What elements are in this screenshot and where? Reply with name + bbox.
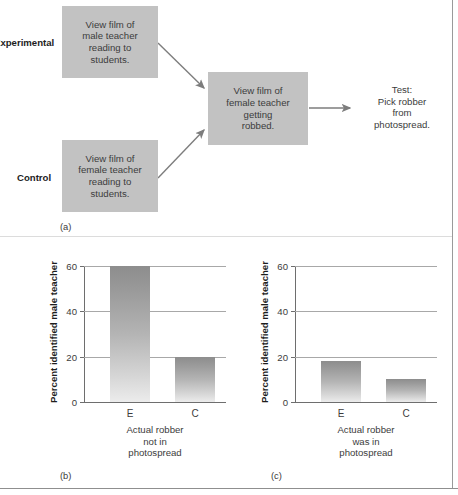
control-condition-box: View film of female teacher reading to s… xyxy=(62,140,158,212)
chart-c-ticklabel-0: 0 xyxy=(283,397,288,408)
box-line: reading to xyxy=(78,176,141,188)
chart-b-gridline-60 xyxy=(84,266,226,267)
group-label-control: Control xyxy=(17,172,51,183)
panel-letter-c: (c) xyxy=(271,470,282,481)
box-line: View film of xyxy=(82,19,137,31)
chart-b-gridline-40 xyxy=(84,311,226,312)
chart-c-bar-C xyxy=(386,379,426,402)
chart-c-y-axis-label: Percent identified male teacher xyxy=(259,261,271,403)
chart-c-ticklabel-40: 40 xyxy=(277,306,288,317)
chart-c-tick-20 xyxy=(291,357,295,358)
chart-b-xtick-E: E xyxy=(127,408,134,419)
chart-b-bar-E xyxy=(110,266,150,402)
outcome-line: photospread. xyxy=(374,119,430,130)
chart-b-ticklabel-0: 0 xyxy=(72,397,77,408)
panel-letter-b: (b) xyxy=(60,470,71,481)
caption-line: was in xyxy=(352,436,379,447)
box-line: female teacher xyxy=(226,97,289,109)
outcome-line: Test: xyxy=(392,84,412,95)
chart-b-tick-40 xyxy=(80,311,84,312)
box-line: robbed. xyxy=(226,120,289,132)
chart-b-tick-60 xyxy=(80,266,84,267)
caption-line: not in xyxy=(143,436,166,447)
outcome-line: Pick robber xyxy=(378,96,427,107)
chart-c-gridline-20 xyxy=(295,357,437,358)
chart-c-tick-0 xyxy=(291,402,295,403)
chart-c-gridline-60 xyxy=(295,266,437,267)
box-line: students. xyxy=(78,188,141,200)
box-line: getting xyxy=(226,109,289,121)
box-line: male teacher xyxy=(82,30,137,42)
experimental-condition-box: View film of male teacher reading to stu… xyxy=(62,6,158,78)
chart-c-y-axis xyxy=(295,266,296,403)
chart-c-ticklabel-60: 60 xyxy=(277,261,288,272)
chart-b-ticklabel-20: 20 xyxy=(66,351,77,362)
outcome-line: from xyxy=(392,107,411,118)
box-line: reading to xyxy=(82,42,137,54)
chart-b-x-axis-caption: Actual robber not in photospread xyxy=(82,424,228,459)
box-line: View film of xyxy=(78,153,141,165)
chart-c-plot-area: 60 40 20 0 xyxy=(295,266,437,403)
test-outcome-text: Test: Pick robber from photospread. xyxy=(352,84,452,130)
chart-b-ticklabel-60: 60 xyxy=(66,261,77,272)
caption-line: Actual robber xyxy=(126,424,183,435)
chart-b-ticklabel-40: 40 xyxy=(66,306,77,317)
chart-c-tick-60 xyxy=(291,266,295,267)
box-line: female teacher xyxy=(78,164,141,176)
chart-c-bar-E xyxy=(321,361,361,402)
chart-b-y-axis-label: Percent identified male teacher xyxy=(48,261,60,403)
chart-b-xtick-C: C xyxy=(191,408,198,419)
frame-bottom-border xyxy=(0,488,458,489)
chart-c-x-axis xyxy=(295,402,437,403)
box-line: students. xyxy=(82,54,137,66)
chart-b-x-axis xyxy=(84,402,226,403)
caption-line: photospread xyxy=(128,447,181,458)
chart-c-xtick-C: C xyxy=(402,408,409,419)
chart-b-plot-area: 60 40 20 0 xyxy=(84,266,226,403)
robbery-film-box: View film of female teacher getting robb… xyxy=(208,72,308,145)
panel-separator-line xyxy=(0,236,452,237)
chart-c-x-axis-caption: Actual robber was in photospread xyxy=(293,424,439,459)
group-label-experimental: Experimental xyxy=(0,37,54,48)
chart-c-xtick-E: E xyxy=(338,408,345,419)
chart-b-bar-C xyxy=(175,357,215,402)
chart-c-ticklabel-20: 20 xyxy=(277,351,288,362)
caption-line: photospread xyxy=(339,447,392,458)
chart-b-tick-0 xyxy=(80,402,84,403)
chart-c-tick-40 xyxy=(291,311,295,312)
chart-b-tick-20 xyxy=(80,357,84,358)
box-line: View film of xyxy=(226,85,289,97)
chart-c-gridline-40 xyxy=(295,311,437,312)
figure-root: Experimental Control View film of male t… xyxy=(0,0,458,495)
panel-letter-a: (a) xyxy=(60,221,71,232)
caption-line: Actual robber xyxy=(337,424,394,435)
chart-b-y-axis xyxy=(84,266,85,403)
